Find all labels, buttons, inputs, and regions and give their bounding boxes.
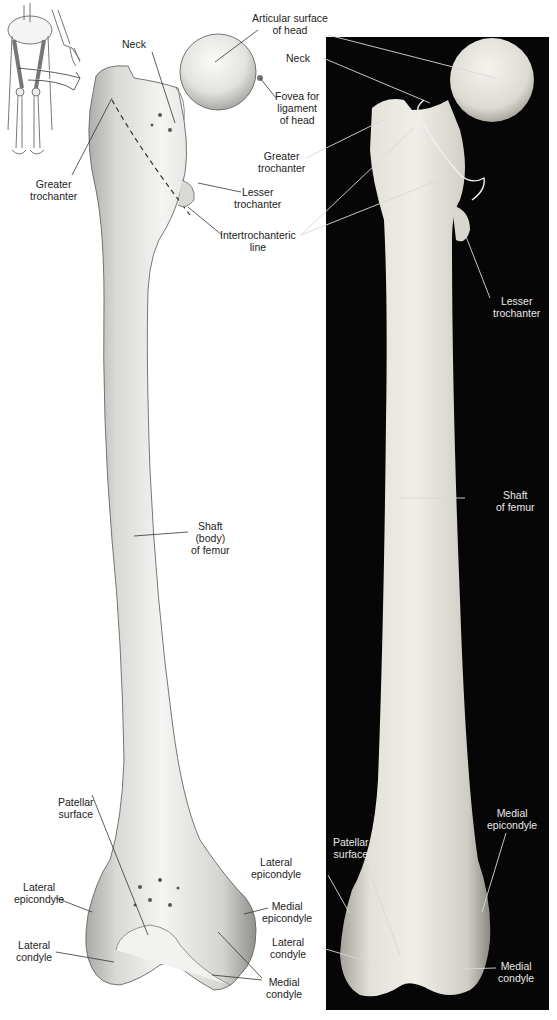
photo-label-patellar-surface: Patellar surface <box>333 836 369 860</box>
label-medial-epicondyle: Medial epicondyle <box>262 900 312 924</box>
label-lesser-trochanter: Lesser trochanter <box>234 186 281 210</box>
photo-label-medial-epicondyle: Medial epicondyle <box>487 807 537 831</box>
photo-label-greater-trochanter: Greater trochanter <box>258 150 305 174</box>
label-neck: Neck <box>122 38 146 50</box>
photo-label-lateral-condyle: Lateral condyle <box>270 936 306 960</box>
photo-label-medial-condyle: Medial condyle <box>498 960 534 984</box>
photo-label-neck: Neck <box>286 52 310 64</box>
photo-label-shaft: Shaft of femur <box>496 489 535 513</box>
photographed-femur <box>340 38 534 996</box>
femur-figure: Neck Articular surface of head Fovea for… <box>0 0 557 1020</box>
label-articular-surface: Articular surface of head <box>252 12 328 36</box>
label-patellar-surface: Patellar surface <box>58 796 94 820</box>
photo-label-lesser-trochanter: Lesser trochanter <box>493 295 540 319</box>
label-lateral-condyle: Lateral condyle <box>16 939 52 963</box>
label-lateral-epicondyle: Lateral epicondyle <box>14 881 64 905</box>
label-greater-trochanter: Greater trochanter <box>30 178 77 202</box>
label-medial-condyle: Medial condyle <box>266 976 302 1000</box>
label-fovea: Fovea for ligament of head <box>275 90 319 126</box>
label-intertrochanteric-line: Intertrochanteric line <box>220 229 296 253</box>
lower-limb-skeleton-icon <box>8 3 80 154</box>
photo-label-lateral-epicondyle: Lateral epicondyle <box>251 856 301 880</box>
label-shaft: Shaft (body) of femur <box>191 520 230 556</box>
